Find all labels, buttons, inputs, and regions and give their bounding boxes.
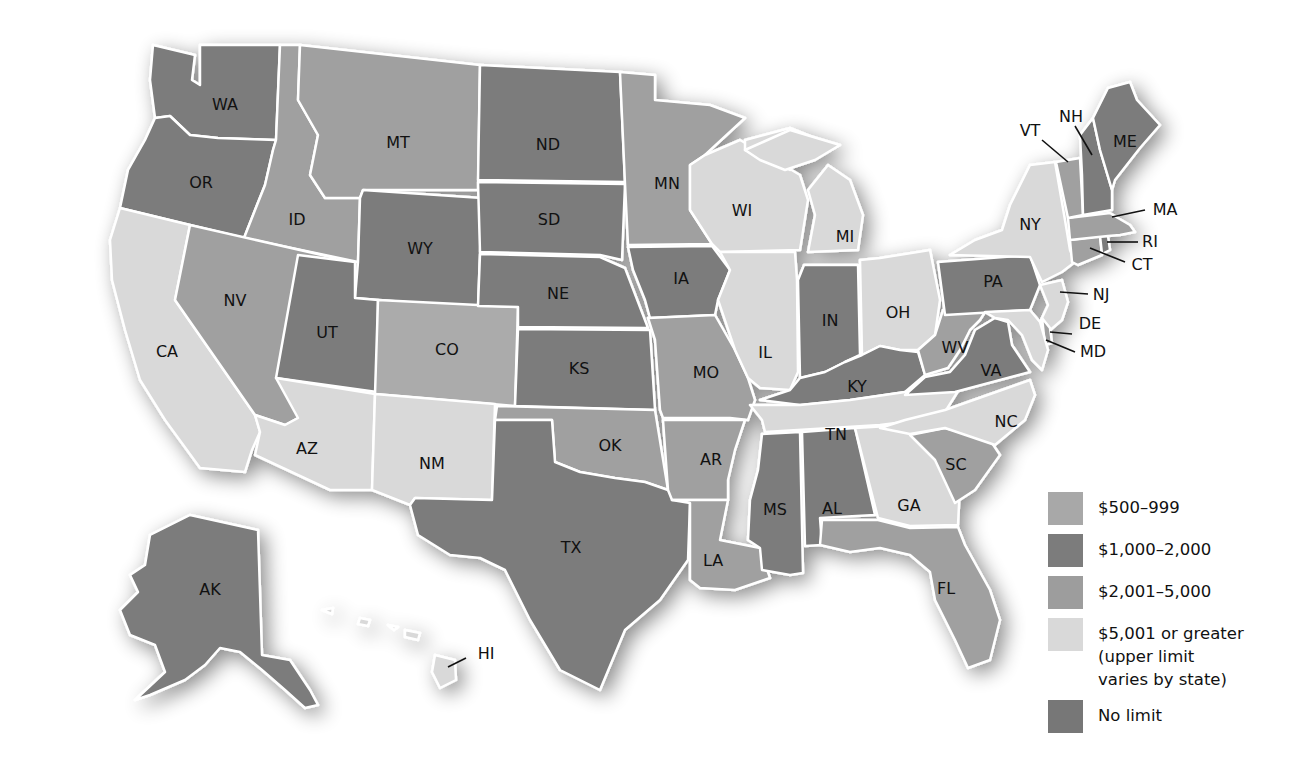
label-AR: AR (700, 450, 722, 469)
label-MI: MI (836, 227, 855, 246)
legend-swatch (1048, 618, 1083, 651)
label-SC: SC (945, 455, 966, 474)
legend: $500–999 $1,000–2,000 $2,001–5,000 $5,00… (1048, 492, 1308, 742)
label-WY: WY (407, 239, 433, 258)
legend-swatch (1048, 700, 1083, 733)
legend-label: $1,000–2,000 (1098, 534, 1211, 561)
label-MT: MT (386, 133, 410, 152)
label-KY: KY (847, 377, 867, 396)
legend-item-no-limit: No limit (1048, 700, 1308, 733)
label-NE: NE (547, 284, 569, 303)
label-WA: WA (212, 95, 238, 114)
leader-line-VT (1042, 140, 1068, 162)
label-TN: TN (824, 425, 847, 444)
label-AK: AK (199, 580, 221, 599)
label-OR: OR (189, 173, 213, 192)
legend-label: No limit (1098, 700, 1162, 727)
label-ID: ID (288, 210, 305, 229)
legend-swatch (1048, 576, 1083, 609)
label-WI: WI (732, 201, 753, 220)
legend-label: $500–999 (1098, 492, 1180, 519)
leader-line-MA (1112, 210, 1145, 217)
label-RI: RI (1142, 232, 1158, 251)
label-IA: IA (673, 269, 689, 288)
label-LA: LA (703, 551, 723, 570)
legend-label: $2,001–5,000 (1098, 576, 1211, 603)
legend-item-500-999: $500–999 (1048, 492, 1308, 525)
legend-swatch (1048, 534, 1083, 567)
label-PA: PA (983, 272, 1003, 291)
legend-label: $5,001 or greater (upper limit varies by… (1098, 618, 1244, 691)
state-FL (820, 520, 1000, 668)
state-AK (120, 515, 318, 708)
state-ND (478, 65, 625, 182)
label-CO: CO (435, 340, 459, 359)
state-NM (372, 394, 495, 505)
label-NC: NC (994, 412, 1017, 431)
label-WV: WV (942, 338, 969, 357)
label-HI: HI (478, 644, 495, 663)
label-NY: NY (1019, 215, 1041, 234)
label-FL: FL (937, 579, 955, 598)
label-SD: SD (538, 210, 560, 229)
legend-item-1000-2000: $1,000–2,000 (1048, 534, 1308, 567)
label-NJ: NJ (1093, 285, 1110, 304)
label-CA: CA (156, 342, 178, 361)
state-MT (298, 45, 480, 198)
label-OH: OH (886, 303, 911, 322)
label-NH: NH (1059, 107, 1083, 126)
leader-line-DE (1050, 332, 1072, 334)
label-MO: MO (693, 363, 719, 382)
label-AL: AL (822, 499, 842, 518)
label-AZ: AZ (296, 439, 318, 458)
label-MD: MD (1080, 342, 1106, 361)
label-VA: VA (981, 361, 1002, 380)
label-KS: KS (569, 359, 590, 378)
label-ND: ND (536, 135, 560, 154)
legend-swatch (1048, 492, 1083, 525)
label-NV: NV (224, 291, 247, 310)
state-RI (1100, 236, 1110, 254)
label-MA: MA (1153, 200, 1178, 219)
leader-line-MD (1046, 340, 1075, 352)
label-IL: IL (758, 343, 772, 362)
label-MS: MS (763, 500, 787, 519)
label-VT: VT (1020, 121, 1041, 140)
label-ME: ME (1113, 132, 1137, 151)
label-MN: MN (654, 174, 680, 193)
label-TX: TX (560, 538, 582, 557)
label-DE: DE (1079, 314, 1101, 333)
label-CT: CT (1132, 255, 1153, 274)
label-IN: IN (822, 311, 839, 330)
label-NM: NM (419, 454, 445, 473)
label-OK: OK (598, 436, 622, 455)
state-HI (322, 608, 456, 688)
label-UT: UT (316, 323, 338, 342)
legend-item-2001-5000: $2,001–5,000 (1048, 576, 1308, 609)
label-GA: GA (897, 496, 920, 515)
legend-item-5001-plus: $5,001 or greater (upper limit varies by… (1048, 618, 1308, 691)
